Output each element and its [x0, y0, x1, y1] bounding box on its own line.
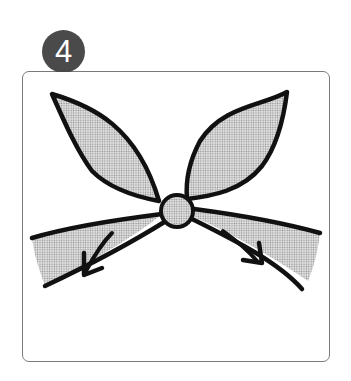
right-tail [192, 209, 320, 289]
center-knot [161, 195, 193, 227]
left-loop [52, 94, 159, 201]
bow-illustration [22, 71, 330, 362]
right-loop [187, 92, 287, 199]
step-badge-container: 4 [40, 28, 88, 72]
step-number: 4 [55, 36, 72, 67]
step-number-badge: 4 [42, 30, 85, 72]
